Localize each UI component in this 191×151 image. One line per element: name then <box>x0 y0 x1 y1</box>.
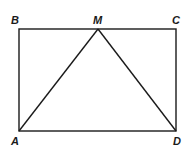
label-c: C <box>172 14 181 26</box>
label-a: A <box>10 135 19 147</box>
segment-md <box>98 29 176 131</box>
rectangle-abcd <box>19 29 176 131</box>
segment-am <box>19 29 98 131</box>
label-m: M <box>93 14 103 26</box>
geometry-diagram: B M C A D <box>0 0 191 151</box>
label-d: D <box>173 135 181 147</box>
label-b: B <box>11 14 19 26</box>
